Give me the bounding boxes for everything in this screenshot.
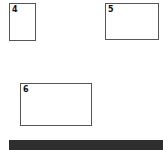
box-5[interactable]: 5 [105, 3, 159, 40]
box-label: 5 [108, 5, 114, 14]
dark-bar [9, 140, 163, 150]
box-label: 4 [12, 5, 18, 14]
box-6[interactable]: 6 [20, 83, 92, 126]
box-4[interactable]: 4 [9, 3, 36, 41]
box-label: 6 [23, 85, 29, 94]
